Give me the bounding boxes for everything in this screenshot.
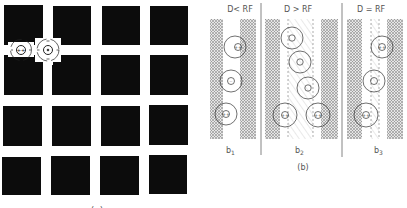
hermann-grid-figure: ++ (a) D< RF [0, 0, 407, 208]
grid-square [2, 157, 41, 195]
condition-label-b2: D > RF [284, 5, 313, 14]
grid-square [100, 156, 139, 195]
subpanel-b2: D > RF ++ ++ b2 ( [265, 5, 338, 172]
condition-label-b1: D< RF [227, 5, 253, 14]
grid-square [150, 55, 188, 95]
grid-square [52, 106, 91, 146]
grid-square [150, 6, 188, 45]
grid-square [3, 106, 42, 146]
svg-text:++: ++ [234, 45, 242, 50]
svg-text:++: ++ [17, 47, 25, 53]
condition-label-b3: D = RF [357, 5, 386, 14]
grid-square [102, 6, 140, 45]
panel-a-grid: ++ (a) [2, 5, 188, 208]
grid-square [101, 55, 140, 95]
subpanel-label-b2: b2 [295, 146, 304, 156]
svg-text:··: ·· [230, 79, 233, 84]
svg-text:++: ++ [281, 113, 289, 118]
panel-b-caption: (b) [297, 163, 308, 172]
subpanel-b1: D< RF ++ ·· ++ b1 [210, 5, 256, 156]
panel-a-caption: (a) [91, 205, 104, 208]
receptive-field-intersection [35, 35, 61, 65]
grid-square [51, 156, 90, 195]
grid-square [149, 105, 188, 145]
subpanel-b3: D = RF ++ ++ b3 [347, 5, 403, 156]
svg-text:++: ++ [378, 45, 386, 50]
svg-text:++: ++ [222, 112, 230, 117]
svg-text:++: ++ [314, 113, 322, 118]
svg-text:++: ++ [362, 113, 370, 118]
subpanel-label-b1: b1 [226, 146, 235, 156]
panel-b: D< RF ++ ·· ++ b1 D > RF [210, 3, 403, 172]
subpanel-label-b3: b3 [374, 146, 383, 156]
grid-square [149, 155, 187, 194]
grid-square [101, 106, 140, 146]
